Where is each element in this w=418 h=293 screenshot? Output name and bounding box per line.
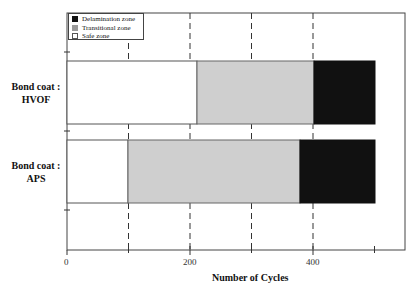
gridlines xyxy=(129,13,314,250)
legend-item-delamination: Delamination zone xyxy=(72,15,140,24)
legend-swatch xyxy=(72,25,78,31)
chart-canvas xyxy=(0,0,418,293)
plot-frame xyxy=(67,13,405,250)
x-tick-0: 0 xyxy=(64,257,69,267)
legend-swatch xyxy=(72,16,78,22)
legend-item-transitional: Transitional zone xyxy=(72,24,140,33)
legend-item-safe: Safe zone xyxy=(72,32,140,41)
bar-hvof xyxy=(67,61,375,124)
x-tick-200: 200 xyxy=(183,257,197,267)
category-label-aps: Bond coat : APS xyxy=(8,159,64,185)
legend: Delamination zone Transitional zone Safe… xyxy=(68,13,144,40)
bar-aps xyxy=(67,140,375,203)
category-label-hvof: Bond coat : HVOF xyxy=(8,80,64,106)
x-tick-400: 400 xyxy=(306,257,320,267)
legend-swatch xyxy=(72,33,78,39)
x-axis-label: Number of Cycles xyxy=(212,272,288,283)
